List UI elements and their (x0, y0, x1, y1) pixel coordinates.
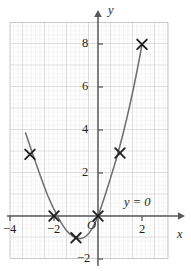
y-tick-label-8: 8 (82, 37, 88, 50)
x-axis-label: x (177, 228, 183, 241)
x-tick-label-minus-4: −4 (3, 223, 16, 236)
y-tick-label-4: 4 (82, 123, 88, 136)
x-tick-label-minus-2: −2 (47, 223, 60, 236)
graph-figure: y x O 8 6 4 2 −2 −4 −2 2 y = 0 (0, 0, 191, 271)
y-tick-label-6: 6 (82, 80, 88, 93)
y-tick-label-minus-2: −2 (77, 252, 90, 265)
y-equals-zero-label: y = 0 (124, 196, 150, 209)
x-tick-label-2: 2 (139, 223, 145, 236)
origin-label: O (87, 219, 96, 232)
y-tick-label-2: 2 (82, 166, 88, 179)
x-axis-arrow (178, 212, 185, 220)
y-axis-label: y (108, 4, 114, 17)
y-axis-arrow (94, 10, 102, 17)
